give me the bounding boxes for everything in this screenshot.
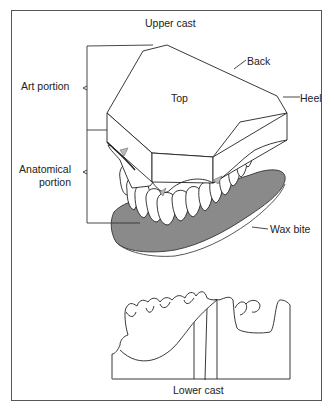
wax-bite-leader [252, 227, 268, 229]
lower-cast [112, 292, 290, 380]
dental-cast-illustration [0, 0, 334, 409]
anatomical-portion-label-line1: Anatomical [13, 163, 71, 175]
upper-cast-title: Upper cast [145, 17, 196, 29]
wax-bite-label: Wax bite [270, 223, 310, 235]
back-label: Back [247, 55, 270, 67]
back-leader [234, 60, 246, 69]
top-label: Top [171, 92, 188, 104]
anatomical-portion-label-line2: portion [13, 176, 71, 188]
art-portion-label: Art portion [21, 80, 69, 92]
lower-cast-title: Lower cast [173, 384, 224, 396]
heel-label: Heel [300, 92, 322, 104]
